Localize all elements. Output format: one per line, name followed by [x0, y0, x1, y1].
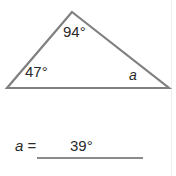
angle-label-apex: 94°	[63, 24, 86, 39]
answer-value[interactable]: 39°	[70, 137, 93, 154]
angle-label-left: 47°	[25, 64, 48, 79]
angle-label-right-unknown: a	[129, 68, 137, 82]
answer-blank-line	[37, 157, 143, 159]
answer-prefix: a =	[15, 137, 36, 154]
triangle-drawing	[0, 0, 176, 100]
answer-row: a = 39°	[0, 134, 176, 166]
worksheet-page: 94° 47° a a = 39°	[0, 0, 176, 176]
answer-equals-sign: =	[28, 137, 37, 154]
triangle-figure: 94° 47° a	[0, 0, 176, 100]
answer-variable: a	[15, 137, 23, 154]
